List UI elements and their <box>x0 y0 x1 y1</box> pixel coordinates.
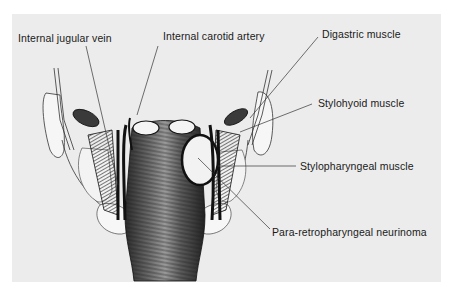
leader-carotid <box>137 46 158 115</box>
label-internal-carotid-artery: Internal carotid artery <box>163 30 265 42</box>
label-stylohyoid-muscle: Stylohyoid muscle <box>318 97 404 109</box>
left-ear-outline <box>43 93 64 158</box>
label-para-retropharyngeal-neurinoma: Para-retropharyngeal neurinoma <box>272 226 427 238</box>
leader-stylohyoid <box>240 104 312 132</box>
label-stylopharyngeal-muscle: Stylopharyngeal muscle <box>300 160 414 172</box>
label-internal-jugular-vein: Internal jugular vein <box>18 32 112 44</box>
anatomical-illustration <box>0 0 455 296</box>
label-digastric-muscle: Digastric muscle <box>322 28 401 40</box>
